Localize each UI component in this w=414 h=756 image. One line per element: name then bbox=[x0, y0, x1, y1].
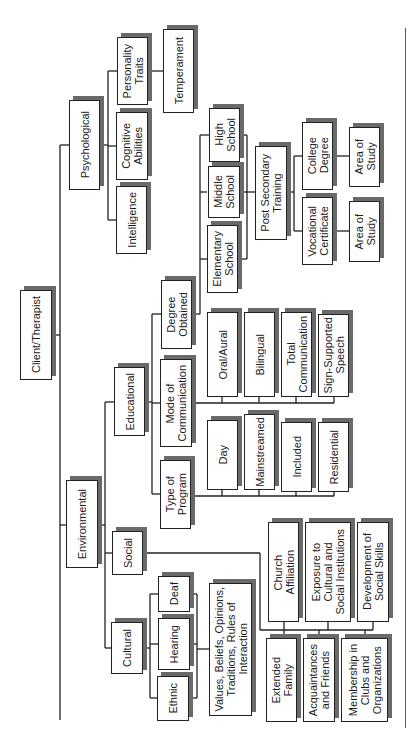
node-label: Elementary School bbox=[211, 231, 235, 287]
node-label: Type of Program bbox=[164, 473, 188, 515]
node-label: Acquaintances and Friends bbox=[307, 644, 331, 716]
node-elementary-school: Elementary School bbox=[207, 225, 238, 293]
node-label: Mainstreamed bbox=[254, 417, 266, 487]
node-label: Mode of Communication bbox=[164, 365, 188, 441]
node-area-of-study-college: Area of Study bbox=[349, 127, 380, 187]
node-deaf: Deaf bbox=[158, 576, 190, 612]
node-label: Area of Study bbox=[353, 139, 377, 174]
node-label: Environmental bbox=[76, 489, 88, 559]
node-residential: Residential bbox=[318, 422, 349, 492]
node-exposure-institutions: Exposure to Cultural and Social Institut… bbox=[305, 522, 351, 622]
node-label: Membership in Clubs and Organizations bbox=[347, 644, 383, 716]
node-middle-school: Middle School bbox=[208, 166, 240, 218]
org-diagram: Client/Therapist Psychological Personali… bbox=[0, 0, 414, 756]
node-temperament: Temperament bbox=[163, 29, 194, 113]
node-label: Area of Study bbox=[353, 214, 377, 249]
node-values-beliefs: Values, Beliefs, Opinions, Traditions, R… bbox=[209, 583, 252, 716]
node-bilingual: Bilingual bbox=[244, 312, 275, 397]
node-client-therapist: Client/Therapist bbox=[20, 290, 52, 380]
node-label: Vocational Certificate bbox=[306, 206, 330, 257]
node-label: Educational bbox=[124, 373, 136, 431]
node-label: Bilingual bbox=[254, 334, 266, 376]
node-cognitive-abilities: Cognitive Abilities bbox=[116, 112, 148, 180]
node-label: Extended Family bbox=[270, 657, 294, 703]
node-educational: Educational bbox=[114, 367, 145, 436]
node-label: Total Communication bbox=[285, 316, 309, 392]
node-intelligence: Intelligence bbox=[116, 186, 147, 254]
node-oral-aural: Oral/Aural bbox=[207, 312, 238, 397]
node-psychological: Psychological bbox=[69, 100, 100, 190]
node-label: Ethnic bbox=[167, 683, 179, 714]
node-church-affiliation: Church Affiliation bbox=[268, 522, 299, 622]
node-mainstreamed: Mainstreamed bbox=[244, 414, 275, 490]
node-label: Psychological bbox=[79, 111, 91, 178]
node-label: College Degree bbox=[306, 137, 330, 174]
node-label: Deaf bbox=[168, 582, 180, 605]
node-extended-family: Extended Family bbox=[266, 638, 297, 722]
node-label: Sign-Supported Speech bbox=[322, 317, 346, 393]
node-label: High School bbox=[213, 118, 237, 152]
node-label: Included bbox=[291, 436, 303, 478]
node-post-secondary-training: Post Secondary Training bbox=[255, 146, 287, 240]
node-label: Middle School bbox=[212, 175, 236, 209]
node-membership-clubs: Membership in Clubs and Organizations bbox=[341, 638, 388, 722]
node-college-degree: College Degree bbox=[302, 122, 333, 190]
node-label: Post Secondary Training bbox=[259, 154, 283, 232]
node-label: Intelligence bbox=[126, 192, 138, 248]
node-hearing: Hearing bbox=[158, 618, 190, 670]
node-personality-traits: Personality Traits bbox=[117, 37, 148, 105]
node-label: Day bbox=[217, 445, 229, 465]
node-label: Cognitive Abilities bbox=[120, 123, 144, 169]
node-acquaintances-friends: Acquaintances and Friends bbox=[303, 638, 335, 722]
node-label: Personality Traits bbox=[121, 44, 145, 98]
node-type-of-program: Type of Program bbox=[160, 460, 191, 529]
node-label: Temperament bbox=[173, 37, 185, 104]
page-edge-rule bbox=[405, 28, 406, 728]
node-sign-supported-speech: Sign-Supported Speech bbox=[318, 314, 349, 397]
node-label: Client/Therapist bbox=[30, 296, 42, 373]
node-label: Degree Obtained bbox=[165, 292, 189, 337]
node-cultural: Cultural bbox=[111, 622, 143, 674]
node-included: Included bbox=[281, 422, 312, 492]
node-total-communication: Total Communication bbox=[281, 312, 312, 397]
node-label: Exposure to Cultural and Social Institut… bbox=[310, 529, 346, 615]
node-label: Values, Beliefs, Opinions, Traditions, R… bbox=[213, 587, 249, 712]
node-mode-of-communication: Mode of Communication bbox=[160, 359, 192, 447]
node-vocational-certificate: Vocational Certificate bbox=[302, 197, 333, 265]
node-label: Church Affiliation bbox=[272, 550, 296, 594]
node-day: Day bbox=[207, 420, 238, 490]
node-label: Cultural bbox=[121, 629, 133, 667]
node-development-social-skills: Development of Social Skills bbox=[357, 522, 389, 622]
node-label: Development of Social Skills bbox=[361, 533, 385, 610]
node-label: Oral/Aural bbox=[217, 330, 229, 380]
node-social: Social bbox=[112, 531, 143, 575]
node-high-school: High School bbox=[209, 108, 240, 162]
node-label: Social bbox=[122, 538, 134, 568]
node-label: Residential bbox=[328, 430, 340, 484]
node-degree-obtained: Degree Obtained bbox=[161, 280, 192, 349]
node-environmental: Environmental bbox=[66, 480, 98, 568]
node-area-of-study-vocational: Area of Study bbox=[349, 201, 380, 262]
node-ethnic: Ethnic bbox=[157, 676, 189, 721]
node-label: Hearing bbox=[168, 625, 180, 664]
